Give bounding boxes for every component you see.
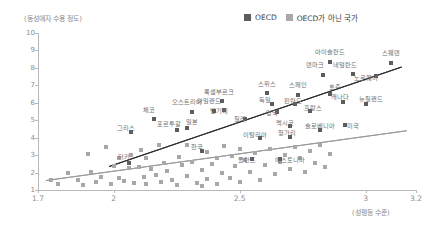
x-tick-mark bbox=[366, 190, 367, 193]
data-point-non-oecd[interactable] bbox=[263, 163, 267, 167]
data-point-non-oecd[interactable] bbox=[76, 178, 80, 182]
country-label: 스위스 bbox=[258, 78, 276, 87]
data-point-non-oecd[interactable] bbox=[258, 178, 262, 182]
data-point-non-oecd[interactable] bbox=[94, 180, 98, 184]
data-point-non-oecd[interactable] bbox=[230, 154, 234, 158]
data-point-non-oecd[interactable] bbox=[81, 183, 85, 187]
data-point-non-oecd[interactable] bbox=[149, 167, 153, 171]
country-label: 멕시코 bbox=[276, 117, 294, 126]
data-point-non-oecd[interactable] bbox=[313, 161, 317, 165]
data-point-non-oecd[interactable] bbox=[144, 156, 148, 160]
data-point-non-oecd[interactable] bbox=[288, 167, 292, 171]
y-tick-label: 10 bbox=[26, 29, 35, 37]
data-point-oecd[interactable] bbox=[190, 110, 194, 114]
y-tick-mark bbox=[35, 85, 38, 86]
data-point-non-oecd[interactable] bbox=[268, 147, 272, 151]
data-point-non-oecd[interactable] bbox=[220, 171, 224, 175]
country-label: 호주 bbox=[329, 82, 341, 91]
data-point-non-oecd[interactable] bbox=[205, 150, 209, 154]
country-label: 덴마크 bbox=[306, 60, 324, 69]
data-point-non-oecd[interactable] bbox=[99, 175, 103, 179]
data-point-oecd[interactable] bbox=[185, 126, 189, 130]
data-point-non-oecd[interactable] bbox=[109, 182, 113, 186]
data-point-non-oecd[interactable] bbox=[222, 144, 226, 148]
data-point-non-oecd[interactable] bbox=[49, 178, 53, 182]
data-point-oecd[interactable] bbox=[341, 100, 345, 104]
data-point-non-oecd[interactable] bbox=[66, 171, 70, 175]
data-point-oecd[interactable] bbox=[175, 128, 179, 132]
data-point-non-oecd[interactable] bbox=[159, 180, 163, 184]
y-tick-label: 8 bbox=[31, 64, 35, 72]
data-point-non-oecd[interactable] bbox=[328, 152, 332, 156]
data-point-oecd[interactable] bbox=[328, 60, 332, 64]
y-tick-label: 3 bbox=[31, 151, 35, 159]
data-point-oecd[interactable] bbox=[270, 102, 274, 106]
x-axis-label: (성평등 수준) bbox=[352, 207, 390, 217]
data-point-non-oecd[interactable] bbox=[104, 145, 108, 149]
data-point-non-oecd[interactable] bbox=[157, 143, 161, 147]
data-point-non-oecd[interactable] bbox=[177, 155, 181, 159]
data-point-non-oecd[interactable] bbox=[215, 156, 219, 160]
data-point-non-oecd[interactable] bbox=[175, 183, 179, 187]
data-point-non-oecd[interactable] bbox=[273, 172, 277, 176]
data-point-non-oecd[interactable] bbox=[248, 170, 252, 174]
data-point-oecd[interactable] bbox=[127, 161, 131, 165]
country-label: 폴란드 bbox=[238, 154, 256, 163]
country-label: 헝가리 bbox=[278, 127, 296, 136]
data-point-non-oecd[interactable] bbox=[308, 149, 312, 153]
data-point-non-oecd[interactable] bbox=[142, 175, 146, 179]
data-point-non-oecd[interactable] bbox=[86, 152, 90, 156]
x-tick-label: 3 bbox=[363, 194, 368, 203]
data-point-oecd[interactable] bbox=[389, 61, 393, 65]
data-point-oecd[interactable] bbox=[152, 117, 156, 121]
country-label: 핀란드 bbox=[284, 96, 302, 105]
legend-item-oecd[interactable]: OECD bbox=[244, 13, 277, 22]
data-point-non-oecd[interactable] bbox=[117, 176, 121, 180]
data-point-non-oecd[interactable] bbox=[228, 176, 232, 180]
data-point-non-oecd[interactable] bbox=[205, 177, 209, 181]
data-point-non-oecd[interactable] bbox=[200, 184, 204, 188]
data-point-non-oecd[interactable] bbox=[238, 180, 242, 184]
data-point-non-oecd[interactable] bbox=[170, 178, 174, 182]
data-point-non-oecd[interactable] bbox=[185, 174, 189, 178]
chart-root: (동성애자 수용 정도) (성평등 수준) OECD OECD가 아닌 국가 1… bbox=[0, 0, 427, 230]
data-point-non-oecd[interactable] bbox=[162, 161, 166, 165]
data-point-non-oecd[interactable] bbox=[190, 160, 194, 164]
data-point-non-oecd[interactable] bbox=[139, 148, 143, 152]
data-point-non-oecd[interactable] bbox=[132, 181, 136, 185]
data-point-non-oecd[interactable] bbox=[293, 145, 297, 149]
country-label: 그리스 bbox=[117, 123, 135, 132]
data-point-non-oecd[interactable] bbox=[112, 164, 116, 168]
data-point-non-oecd[interactable] bbox=[56, 182, 60, 186]
data-point-non-oecd[interactable] bbox=[185, 143, 189, 147]
data-point-oecd[interactable] bbox=[321, 73, 325, 77]
data-point-non-oecd[interactable] bbox=[127, 166, 131, 170]
data-point-non-oecd[interactable] bbox=[318, 143, 322, 147]
country-label: 영국 bbox=[266, 107, 278, 116]
data-point-non-oecd[interactable] bbox=[137, 165, 141, 169]
data-point-non-oecd[interactable] bbox=[215, 182, 219, 186]
data-point-non-oecd[interactable] bbox=[154, 173, 158, 177]
non-oecd-trend bbox=[46, 131, 406, 182]
data-point-non-oecd[interactable] bbox=[303, 170, 307, 174]
data-point-non-oecd[interactable] bbox=[210, 162, 214, 166]
data-point-non-oecd[interactable] bbox=[195, 181, 199, 185]
legend-item-non-oecd[interactable]: OECD가 아닌 국가 bbox=[286, 12, 358, 23]
data-point-oecd[interactable] bbox=[212, 109, 216, 113]
data-point-non-oecd[interactable] bbox=[129, 153, 133, 157]
data-point-non-oecd[interactable] bbox=[238, 147, 242, 151]
data-point-non-oecd[interactable] bbox=[200, 168, 204, 172]
data-point-non-oecd[interactable] bbox=[89, 170, 93, 174]
data-point-non-oecd[interactable] bbox=[233, 164, 237, 168]
data-point-non-oecd[interactable] bbox=[165, 169, 169, 173]
data-point-non-oecd[interactable] bbox=[323, 165, 327, 169]
x-tick-label: 2 bbox=[111, 194, 116, 203]
country-label: 캐나다 bbox=[331, 91, 349, 100]
data-point-non-oecd[interactable] bbox=[180, 163, 184, 167]
x-tick-mark bbox=[38, 190, 39, 193]
data-point-non-oecd[interactable] bbox=[122, 179, 126, 183]
y-tick-mark bbox=[35, 155, 38, 156]
data-point-non-oecd[interactable] bbox=[144, 182, 148, 186]
x-tick-mark bbox=[114, 190, 115, 193]
country-label: 네덜란드 bbox=[333, 59, 357, 68]
